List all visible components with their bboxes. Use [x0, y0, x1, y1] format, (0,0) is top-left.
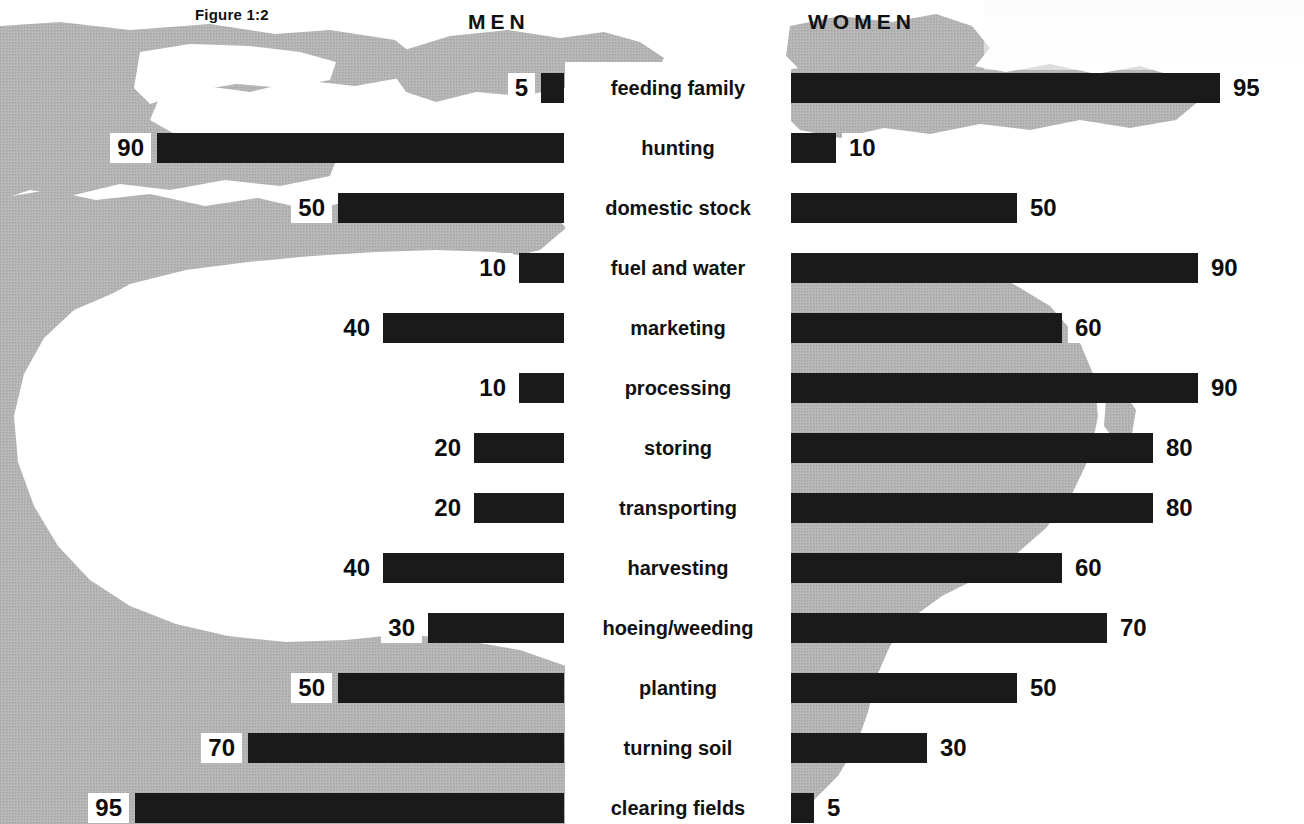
men-bar-cell: 20	[0, 433, 564, 463]
women-bar-cell: 90	[791, 373, 1304, 403]
category-label: domestic stock	[565, 193, 791, 223]
women-bar-cell: 60	[791, 553, 1304, 583]
women-value-label: 60	[1068, 313, 1109, 343]
women-bar-cell: 50	[791, 193, 1304, 223]
bar-row: 20storing80	[0, 433, 1304, 463]
men-bar	[248, 733, 564, 763]
bar-row: 10processing90	[0, 373, 1304, 403]
women-bar	[791, 433, 1153, 463]
figure-canvas: Figure 1:2 MEN WOMEN 5feeding family9590…	[0, 0, 1304, 824]
women-bar	[791, 133, 836, 163]
men-value-label: 50	[291, 193, 332, 223]
men-bar-cell: 95	[0, 793, 564, 823]
women-bar-cell: 70	[791, 613, 1304, 643]
women-bar-cell: 5	[791, 793, 1304, 823]
women-value-label: 50	[1023, 193, 1064, 223]
men-bar	[428, 613, 564, 643]
category-label: transporting	[565, 493, 791, 523]
women-bar	[791, 73, 1220, 103]
men-bar-cell: 20	[0, 493, 564, 523]
women-bar	[791, 493, 1153, 523]
bar-row: 40harvesting60	[0, 553, 1304, 583]
category-label: harvesting	[565, 553, 791, 583]
category-label: clearing fields	[565, 793, 791, 823]
women-value-label: 10	[842, 133, 883, 163]
men-bar	[338, 673, 564, 703]
women-value-label: 90	[1204, 253, 1245, 283]
bar-row: 70turning soil30	[0, 733, 1304, 763]
women-bar	[791, 373, 1198, 403]
category-label: marketing	[565, 313, 791, 343]
bar-row: 50domestic stock50	[0, 193, 1304, 223]
women-value-label: 80	[1159, 493, 1200, 523]
men-value-label: 70	[201, 733, 242, 763]
women-bar	[791, 793, 814, 823]
men-bar	[157, 133, 564, 163]
men-bar-cell: 50	[0, 193, 564, 223]
women-bar	[791, 673, 1017, 703]
men-bar-cell: 70	[0, 733, 564, 763]
men-bar	[519, 253, 564, 283]
figure-caption: Figure 1:2	[195, 6, 269, 23]
women-bar-cell: 90	[791, 253, 1304, 283]
women-value-label: 30	[933, 733, 974, 763]
women-bar-cell: 80	[791, 493, 1304, 523]
men-value-label: 10	[472, 373, 513, 403]
men-bar	[338, 193, 564, 223]
men-bar	[474, 493, 564, 523]
women-value-label: 95	[1226, 73, 1267, 103]
men-bar-cell: 10	[0, 253, 564, 283]
category-label: hoeing/weeding	[565, 613, 791, 643]
women-value-label: 50	[1023, 673, 1064, 703]
men-bar-cell: 30	[0, 613, 564, 643]
men-bar	[474, 433, 564, 463]
category-label: planting	[565, 673, 791, 703]
women-bar	[791, 253, 1198, 283]
category-label: processing	[565, 373, 791, 403]
men-value-label: 30	[381, 613, 422, 643]
bar-row: 5feeding family95	[0, 73, 1304, 103]
bar-row: 90hunting10	[0, 133, 1304, 163]
category-label: fuel and water	[565, 253, 791, 283]
bar-row: 20transporting80	[0, 493, 1304, 523]
women-bar	[791, 733, 927, 763]
bar-row: 95clearing fields5	[0, 793, 1304, 823]
men-bar-cell: 40	[0, 553, 564, 583]
women-bar-cell: 95	[791, 73, 1304, 103]
men-value-label: 50	[291, 673, 332, 703]
men-bar-cell: 90	[0, 133, 564, 163]
men-bar	[383, 553, 564, 583]
men-bar-cell: 10	[0, 373, 564, 403]
women-bar	[791, 613, 1107, 643]
women-bar-cell: 50	[791, 673, 1304, 703]
men-value-label: 10	[472, 253, 513, 283]
women-bar	[791, 553, 1062, 583]
men-bar	[519, 373, 564, 403]
men-value-label: 20	[427, 493, 468, 523]
women-value-label: 60	[1068, 553, 1109, 583]
bar-row: 10fuel and water90	[0, 253, 1304, 283]
men-bar-cell: 40	[0, 313, 564, 343]
category-label: storing	[565, 433, 791, 463]
men-value-label: 40	[336, 313, 377, 343]
women-bar-cell: 80	[791, 433, 1304, 463]
women-value-label: 80	[1159, 433, 1200, 463]
category-label: feeding family	[565, 73, 791, 103]
women-value-label: 5	[820, 793, 847, 823]
women-bar	[791, 313, 1062, 343]
women-value-label: 70	[1113, 613, 1154, 643]
men-bar	[383, 313, 564, 343]
men-bar-cell: 50	[0, 673, 564, 703]
bar-row: 50planting50	[0, 673, 1304, 703]
men-value-label: 20	[427, 433, 468, 463]
column-heading-men: MEN	[468, 10, 530, 34]
bar-row: 30hoeing/weeding70	[0, 613, 1304, 643]
women-bar-cell: 10	[791, 133, 1304, 163]
bar-rows-container: 5feeding family9590hunting1050domestic s…	[0, 0, 1304, 824]
men-value-label: 5	[508, 73, 535, 103]
men-bar	[135, 793, 564, 823]
women-bar	[791, 193, 1017, 223]
men-value-label: 95	[88, 793, 129, 823]
men-value-label: 40	[336, 553, 377, 583]
men-bar-cell: 5	[0, 73, 564, 103]
